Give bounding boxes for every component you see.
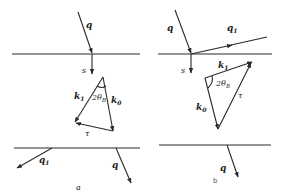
caption-b: b bbox=[213, 177, 218, 185]
label-s-b: s bbox=[181, 66, 185, 75]
caption-a: a bbox=[76, 183, 81, 192]
q1-arrow-b bbox=[191, 45, 232, 54]
label-k1-a: k1 bbox=[74, 91, 84, 102]
incident-q-arrow-b bbox=[175, 10, 191, 53]
angle-arc-a bbox=[97, 86, 106, 88]
label-q-incident-b: q bbox=[167, 23, 173, 33]
panel-b: q q1 s k1 k0 2θB τ q b bbox=[158, 10, 272, 185]
label-angle-b: 2θB bbox=[215, 79, 230, 89]
tau-arrow-a bbox=[76, 123, 113, 131]
label-q-out-b: q bbox=[220, 163, 226, 173]
label-k0-a: k0 bbox=[111, 95, 122, 106]
label-tau-a: τ bbox=[85, 129, 90, 138]
q1-line-b bbox=[231, 37, 267, 45]
label-tau-b: τ bbox=[238, 91, 243, 100]
diffraction-diagram: q s k1 k0 2θB τ q1 q a q q1 s k1 bbox=[0, 0, 281, 196]
q-out-arrow-b bbox=[227, 145, 238, 177]
label-s-a: s bbox=[82, 66, 86, 75]
angle-arc-b bbox=[208, 76, 213, 88]
label-k1-b: k1 bbox=[218, 60, 228, 71]
label-q1-b: q1 bbox=[227, 23, 237, 34]
label-k0-b: k0 bbox=[196, 102, 207, 113]
panel-a: q s k1 k0 2θB τ q1 q a bbox=[12, 12, 140, 192]
label-angle-a: 2θB bbox=[91, 93, 106, 103]
label-q-out-a: q bbox=[112, 160, 118, 170]
incident-q-arrow-a bbox=[78, 12, 92, 53]
tau-arrow-b bbox=[218, 63, 251, 129]
label-q-incident-a: q bbox=[86, 20, 92, 30]
label-q1-a: q1 bbox=[39, 155, 49, 166]
